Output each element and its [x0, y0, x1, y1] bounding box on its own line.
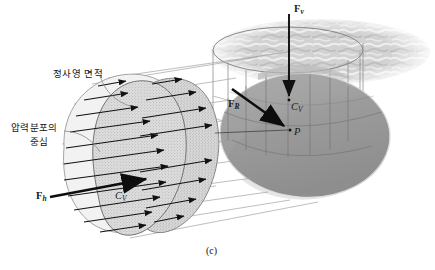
figure-caption: (c)	[206, 245, 217, 256]
label-pressure-center-line1: 압력분포의	[11, 120, 58, 134]
label-projected-area: 정사영 면적	[53, 66, 103, 80]
centroid-dot-left	[119, 183, 122, 186]
figure-container	[0, 0, 435, 270]
label-force-horizontal: Fh	[36, 190, 47, 203]
cv-left-subscript: V	[122, 194, 127, 203]
fr-subscript: R	[234, 102, 239, 111]
fv-subscript: v	[300, 7, 303, 16]
fh-subscript: h	[42, 194, 46, 203]
label-force-resultant: FR	[228, 98, 239, 111]
label-force-vertical: Fv	[294, 3, 304, 16]
label-pressure-center-line2: 중심	[30, 134, 49, 148]
curved-surface-body	[220, 65, 390, 200]
label-centroid-right: CV	[291, 101, 303, 114]
cv-right-symbol: C	[291, 101, 298, 112]
projected-area-shapes	[64, 74, 219, 235]
cv-left-symbol: C	[115, 190, 122, 201]
cv-right-subscript: V	[298, 105, 303, 114]
diagram-svg	[0, 0, 435, 270]
label-point-p: P	[294, 126, 300, 137]
label-centroid-left: CV	[115, 190, 127, 203]
